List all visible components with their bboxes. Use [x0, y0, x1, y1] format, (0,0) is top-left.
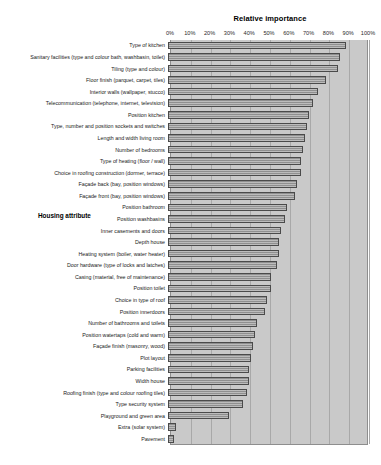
x-tick-70pct: 70%	[303, 29, 314, 37]
bar-row: Casing (material, free of maintenance)	[0, 271, 381, 282]
category-label: Extra (solar system)	[0, 424, 168, 430]
bar-row: Width house	[0, 376, 381, 387]
x-tick-80pct: 80%	[323, 29, 334, 37]
bar	[168, 180, 297, 188]
bar-row: Position toilet	[0, 283, 381, 294]
bar-row: Heating system (boiler, water heater)	[0, 248, 381, 259]
bar-row: Interior walls (wallpaper, stucco)	[0, 86, 381, 97]
bar-row: Pavement	[0, 433, 381, 444]
bar-cell	[168, 271, 366, 282]
bar-row: Sanitary facilities (type and colour bat…	[0, 52, 381, 63]
bar-cell	[168, 237, 366, 248]
category-label: Position bathroom	[0, 204, 168, 210]
x-tick-100pct: 100%	[361, 29, 375, 37]
x-tick-50pct: 50%	[263, 29, 274, 37]
category-label: Position kitchen	[0, 112, 168, 118]
bar	[168, 76, 326, 84]
category-label: Plot layout	[0, 355, 168, 361]
x-tick-20pct: 20%	[204, 29, 215, 37]
bar-row: Number of bedrooms	[0, 144, 381, 155]
bar	[168, 389, 247, 397]
bar-row: Telecommunication (telephone, internet, …	[0, 98, 381, 109]
bar-cell	[168, 260, 366, 271]
category-label: Type of kitchen	[0, 42, 168, 48]
bar-row: Type security system	[0, 399, 381, 410]
bar-cell	[168, 214, 366, 225]
bar-row: Extra (solar system)	[0, 422, 381, 433]
bar-cell	[168, 75, 366, 86]
bar-row: Roofing finish (type and colour roofing …	[0, 387, 381, 398]
bar-cell	[168, 352, 366, 363]
category-label: Casing (material, free of maintenance)	[0, 274, 168, 280]
chart-title: Relative importance	[170, 14, 370, 24]
bar	[168, 354, 251, 362]
category-label: Telecommunication (telephone, internet, …	[0, 100, 168, 106]
bar	[168, 285, 271, 293]
bar-row: Type, number and position sockets and sw…	[0, 121, 381, 132]
bar	[168, 423, 176, 431]
bar-row: Type of kitchen	[0, 40, 381, 51]
bar	[168, 53, 340, 61]
category-label: Position watertaps (cold and warm)	[0, 332, 168, 338]
bar	[168, 342, 253, 350]
bar-cell	[168, 283, 366, 294]
bar-row: Floor finish (parquet, carpet, tiles)	[0, 75, 381, 86]
bar-cell	[168, 63, 366, 74]
bar	[168, 238, 279, 246]
bar-cell	[168, 295, 366, 306]
bar-row: Length and width living room	[0, 133, 381, 144]
bar	[168, 65, 338, 73]
category-label: Façade finish (masonry, wood)	[0, 343, 168, 349]
bar	[168, 308, 265, 316]
bar-cell	[168, 248, 366, 259]
bar-row: Parking facilities	[0, 364, 381, 375]
bar-row: Tiling (type and colour)	[0, 63, 381, 74]
category-label: Depth house	[0, 239, 168, 245]
category-label: Interior walls (wallpaper, stucco)	[0, 89, 168, 95]
bar-cell	[168, 306, 366, 317]
bar	[168, 435, 174, 443]
bar-cell	[168, 179, 366, 190]
y-axis-label: Housing attribute	[38, 212, 91, 219]
bar	[168, 296, 267, 304]
bar-cell	[168, 40, 366, 51]
bar	[168, 169, 301, 177]
relative-importance-bar-chart: Relative importance 0%10%20%30%40%50%60%…	[0, 0, 381, 465]
bar-cell	[168, 399, 366, 410]
category-label: Inner casements and doors	[0, 228, 168, 234]
x-tick-30pct: 30%	[224, 29, 235, 37]
x-tick-90pct: 90%	[343, 29, 354, 37]
bar	[168, 331, 255, 339]
category-label: Façade back (bay, position windows)	[0, 181, 168, 187]
bar-cell	[168, 225, 366, 236]
category-label: Pavement	[0, 436, 168, 442]
bar-cell	[168, 52, 366, 63]
bar-cell	[168, 133, 366, 144]
bar	[168, 273, 271, 281]
category-label: Choice in type of roof	[0, 297, 168, 303]
bar-cell	[168, 109, 366, 120]
bar-cell	[168, 156, 366, 167]
category-label: Width house	[0, 378, 168, 384]
bar-cell	[168, 167, 366, 178]
category-label: Tiling (type and colour)	[0, 66, 168, 72]
bar-row: Position innerdoors	[0, 306, 381, 317]
category-label: Number of bathrooms and toilets	[0, 320, 168, 326]
bar-cell	[168, 202, 366, 213]
bar-cell	[168, 422, 366, 433]
category-label: Door hardware (type of locks and latches…	[0, 262, 168, 268]
category-label: Floor finish (parquet, carpet, tiles)	[0, 77, 168, 83]
category-label: Length and width living room	[0, 135, 168, 141]
x-axis-tick-labels: 0%10%20%30%40%50%60%70%80%90%100%	[170, 29, 368, 39]
category-label: Playground and green area	[0, 413, 168, 419]
x-tick-10pct: 10%	[184, 29, 195, 37]
bar-row: Façade front (bay, position windows)	[0, 190, 381, 201]
x-tick-0pct: 0%	[166, 29, 174, 37]
category-label: Parking facilities	[0, 366, 168, 372]
bar-row: Inner casements and doors	[0, 225, 381, 236]
bar-cell	[168, 144, 366, 155]
category-label: Heating system (boiler, water heater)	[0, 251, 168, 257]
bar	[168, 400, 243, 408]
bar	[168, 204, 287, 212]
bar	[168, 377, 249, 385]
